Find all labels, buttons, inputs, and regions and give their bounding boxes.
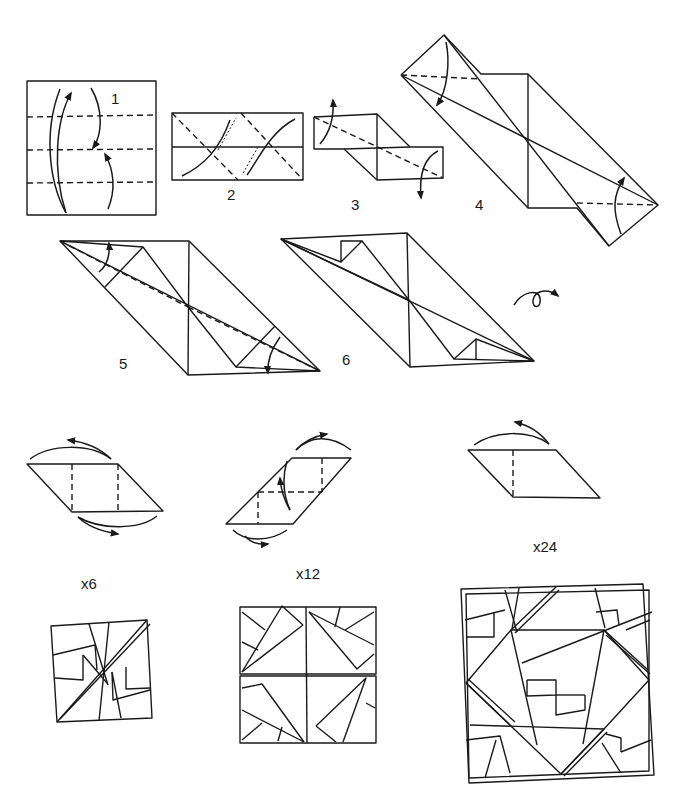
step-6-label: 6 (342, 351, 350, 368)
unit-parallelogram-c (468, 422, 600, 498)
assembly-x24-label: x24 (533, 538, 557, 555)
step-6-folded (281, 233, 534, 367)
step-4-label: 4 (475, 196, 483, 213)
assembly-x6-unit (51, 620, 152, 722)
assembly-x12-label: x12 (296, 565, 320, 582)
unit-parallelogram-a (27, 440, 163, 534)
step-1-square (27, 81, 156, 215)
step-3-label: 3 (351, 196, 359, 213)
step-4-folded (401, 35, 658, 246)
step-5-label: 5 (119, 355, 127, 372)
turn-over-icon (514, 291, 558, 307)
assembly-x24-unit (461, 584, 654, 783)
step-2-rectangle (172, 113, 303, 180)
step-3-folded (314, 100, 443, 198)
unit-parallelogram-b (226, 434, 351, 544)
origami-diagram (0, 0, 681, 804)
step-1-label: 1 (111, 90, 119, 107)
assembly-x12-unit (240, 606, 376, 743)
step-5-folded (60, 241, 320, 375)
step-2-label: 2 (227, 186, 235, 203)
assembly-x6-label: x6 (81, 575, 97, 592)
